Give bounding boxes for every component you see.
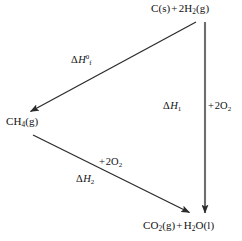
subscript-4: 4: [21, 121, 25, 129]
subscript-2: 2: [119, 161, 122, 168]
enthalpy-symbol: H: [83, 173, 91, 184]
formation-arrow: [31, 22, 197, 112]
node-label-reactants: C(s) + 2H2(g): [151, 3, 209, 15]
index-subscript-1: 1: [178, 105, 181, 112]
enthalpy-symbol: H: [78, 54, 86, 65]
node-label-products: CO2(g) + H2O(l): [143, 220, 214, 232]
enthalpy-symbol: H: [170, 100, 178, 111]
arrow-label-enthalpy-formation: ΔH0f: [71, 54, 92, 65]
subscript-2: 2: [158, 225, 162, 233]
arrow-label-oxygen-direct: + 2O2: [208, 100, 231, 111]
node-label-methane: CH4(g): [6, 116, 38, 128]
hess-law-cycle-diagram: C(s) + 2H2(g) CH4(g) CO2(g) + H2O(l) ΔH0…: [0, 0, 242, 241]
arrow-label-delta-h-1: ΔH1: [163, 100, 181, 111]
index-subscript-2: 2: [91, 178, 94, 185]
arrow-label-oxygen-methane: + 2O2: [99, 156, 122, 167]
subscript-2: 2: [192, 225, 196, 233]
subscript-2: 2: [228, 105, 231, 112]
arrow-label-delta-h-2: ΔH2: [76, 173, 94, 184]
formation-subscript: f: [89, 59, 91, 66]
methane-combustion-arrow: [33, 135, 190, 213]
subscript-2: 2: [192, 8, 196, 16]
